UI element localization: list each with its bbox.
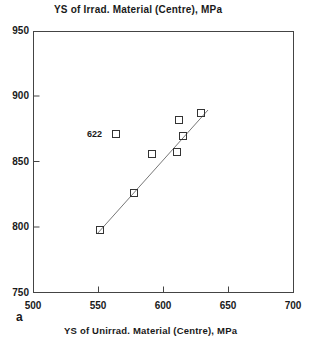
- trend-line: [97, 110, 208, 234]
- data-point-annotation-622: 622: [87, 129, 102, 139]
- y-tick-label-950: 950: [3, 25, 29, 36]
- x-tick-label-650: 650: [213, 300, 243, 311]
- x-tick-marks: [34, 287, 294, 293]
- y-tick-label-900: 900: [3, 90, 29, 101]
- y-tick-label-800: 800: [3, 221, 29, 232]
- data-point: [149, 151, 156, 158]
- data-point: [174, 149, 181, 156]
- y-tick-label-750: 750: [3, 287, 29, 298]
- plot-frame: [34, 32, 294, 293]
- y-tick-marks: [34, 32, 40, 293]
- panel-letter-label: a: [16, 310, 23, 324]
- x-tick-label-550: 550: [83, 300, 113, 311]
- x-axis-label: YS of Unirrad. Material (Centre), MPa: [64, 325, 237, 336]
- data-point: [176, 117, 183, 124]
- x-tick-label-700: 700: [278, 300, 308, 311]
- chart-figure: YS of Irrad. Material (Centre), MPa: [0, 0, 315, 345]
- x-tick-label-600: 600: [148, 300, 178, 311]
- plot-canvas: [0, 0, 315, 345]
- data-point-markers: [97, 110, 205, 234]
- data-point-labeled: [113, 131, 120, 138]
- y-tick-label-850: 850: [3, 156, 29, 167]
